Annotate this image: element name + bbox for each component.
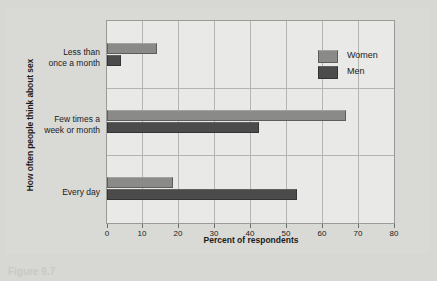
tick-mark-50: [286, 224, 287, 228]
gridline-category-2: [107, 155, 394, 156]
plot-area: 0 10 20 30 40 50 60 70 80 Women Men: [106, 20, 395, 224]
tick-mark-70: [358, 224, 359, 228]
tick-label-0: 0: [92, 229, 122, 238]
legend-entry-women: Women: [318, 49, 414, 65]
tick-label-70: 70: [343, 229, 373, 238]
category-label-line-2: once a month: [8, 58, 100, 69]
category-label-few-times-a-week-or-month: Few times a week or month: [8, 114, 100, 136]
chart-panel: How often people think about sex Percent…: [6, 8, 429, 254]
tick-label-60: 60: [307, 229, 337, 238]
tick-mark-80: [394, 224, 395, 228]
bar-men-few-times-a-week-or-month: [107, 122, 259, 133]
tick-mark-60: [322, 224, 323, 228]
legend: Women Men: [318, 49, 414, 81]
legend-label-women: Women: [347, 50, 378, 60]
category-label-every-day: Every day: [8, 187, 100, 198]
bar-women-few-times-a-week-or-month: [107, 110, 346, 121]
gridline-category-1: [107, 88, 394, 89]
legend-swatch-women-icon: [318, 50, 338, 63]
category-label-line-1: Every day: [8, 187, 100, 198]
bar-women-less-than-once-a-month: [107, 43, 157, 54]
tick-label-40: 40: [235, 229, 265, 238]
tick-mark-20: [178, 224, 179, 228]
legend-entry-men: Men: [318, 65, 414, 81]
legend-label-men: Men: [347, 66, 365, 76]
figure-caption: Figure 9.7: [8, 266, 55, 277]
tick-mark-40: [250, 224, 251, 228]
bar-women-every-day: [107, 177, 173, 188]
category-label-line-1: Less than: [8, 47, 100, 58]
tick-label-10: 10: [127, 229, 157, 238]
tick-label-30: 30: [199, 229, 229, 238]
tick-label-20: 20: [163, 229, 193, 238]
tick-label-50: 50: [271, 229, 301, 238]
tick-label-80: 80: [379, 229, 409, 238]
tick-mark-10: [142, 224, 143, 228]
category-label-line-1: Few times a: [8, 114, 100, 125]
bar-men-every-day: [107, 189, 297, 200]
category-label-line-2: week or month: [8, 125, 100, 136]
figure-container: How often people think about sex Percent…: [0, 0, 437, 281]
category-label-less-than-once-a-month: Less than once a month: [8, 47, 100, 69]
tick-mark-0: [107, 224, 108, 228]
bar-men-less-than-once-a-month: [107, 55, 121, 66]
tick-mark-30: [214, 224, 215, 228]
legend-swatch-men-icon: [318, 66, 338, 79]
